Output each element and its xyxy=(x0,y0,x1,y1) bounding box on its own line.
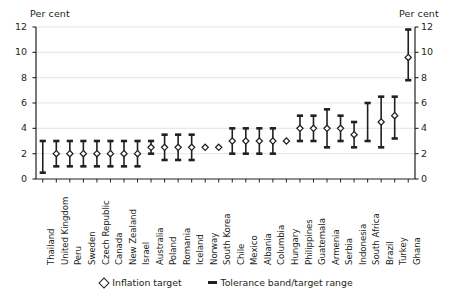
inflation-target-marker xyxy=(67,151,73,157)
x-axis-label-indonesia: Indonesia xyxy=(358,224,368,265)
x-axis-label-guatemala: Guatemala xyxy=(317,218,327,265)
x-axis-label-south-africa: South Africa xyxy=(371,213,381,265)
inflation-target-marker xyxy=(243,138,249,144)
inflation-target-chart: Per cent Per cent 002244668810101212 Tha… xyxy=(0,0,453,302)
x-axis-label-australia: Australia xyxy=(155,227,165,265)
chart-legend: Inflation targetTolerance band/target ra… xyxy=(0,277,453,288)
inflation-target-marker xyxy=(80,151,86,157)
x-axis-label-iceland: Iceland xyxy=(195,234,205,265)
y-tick-label-right: 12 xyxy=(421,22,437,32)
inflation-target-marker xyxy=(175,144,181,150)
inflation-target-marker xyxy=(392,113,398,119)
x-axis-label-united-kingdom: United Kingdom xyxy=(60,197,70,265)
legend-item: Inflation target xyxy=(100,277,181,288)
inflation-target-marker xyxy=(189,144,195,150)
x-axis-label-philippines: Philippines xyxy=(304,219,314,265)
legend-item: Tolerance band/target range xyxy=(208,277,353,288)
x-axis-label-thailand: Thailand xyxy=(46,228,56,265)
y-tick-label-left: 10 xyxy=(11,47,27,57)
inflation-target-marker xyxy=(161,144,167,150)
x-axis-label-south-korea: South Korea xyxy=(222,213,232,265)
inflation-target-marker xyxy=(378,119,384,125)
y-tick-label-right: 8 xyxy=(421,73,437,83)
x-axis-label-albania: Albania xyxy=(263,233,273,265)
x-axis-label-poland: Poland xyxy=(168,237,178,265)
y-tick-label-right: 10 xyxy=(421,47,437,57)
y-tick-label-right: 0 xyxy=(421,174,437,184)
legend-diamond-icon xyxy=(99,277,110,288)
inflation-target-marker xyxy=(351,132,357,138)
inflation-target-marker xyxy=(337,125,343,131)
x-axis-label-turkey: Turkey xyxy=(398,237,408,265)
x-axis-label-peru: Peru xyxy=(73,246,83,265)
inflation-target-marker xyxy=(53,151,59,157)
inflation-target-marker xyxy=(94,151,100,157)
inflation-target-marker xyxy=(107,151,113,157)
y-tick-label-left: 12 xyxy=(11,22,27,32)
inflation-target-marker xyxy=(148,144,154,150)
x-axis-label-sweden: Sweden xyxy=(87,231,97,265)
x-axis-label-czech-republic: Czech Republic xyxy=(101,200,111,265)
x-axis-label-new-zealand: New Zealand xyxy=(128,209,138,265)
x-axis-label-armenia: Armenia xyxy=(331,229,341,265)
inflation-target-marker xyxy=(202,144,208,150)
y-tick-label-left: 2 xyxy=(11,149,27,159)
legend-bar-icon xyxy=(208,281,217,284)
legend-label: Tolerance band/target range xyxy=(221,277,353,288)
inflation-target-marker xyxy=(297,125,303,131)
legend-label: Inflation target xyxy=(112,277,181,288)
inflation-target-marker xyxy=(121,151,127,157)
y-tick-label-right: 4 xyxy=(421,123,437,133)
x-axis-label-brazil: Brazil xyxy=(385,241,395,265)
x-axis-label-chile: Chile xyxy=(236,244,246,265)
x-axis-label-israel: Israel xyxy=(141,242,151,265)
x-axis-label-canada: Canada xyxy=(114,233,124,265)
inflation-target-marker xyxy=(283,138,289,144)
x-axis-label-norway: Norway xyxy=(209,233,219,265)
y-tick-label-left: 6 xyxy=(11,98,27,108)
x-axis-label-columbia: Columbia xyxy=(276,225,286,265)
inflation-target-marker xyxy=(405,54,411,60)
inflation-target-marker xyxy=(256,138,262,144)
x-axis-label-serbia: Serbia xyxy=(344,238,354,265)
x-axis-label-hungary: Hungary xyxy=(290,229,300,265)
inflation-target-marker xyxy=(310,125,316,131)
y-tick-label-left: 4 xyxy=(11,123,27,133)
y-tick-label-left: 0 xyxy=(11,174,27,184)
inflation-target-marker xyxy=(270,138,276,144)
x-axis-label-ghana: Ghana xyxy=(412,237,422,265)
inflation-target-marker xyxy=(216,144,222,150)
x-axis-label-mexico: Mexico xyxy=(249,235,259,265)
y-tick-label-right: 2 xyxy=(421,149,437,159)
inflation-target-marker xyxy=(324,125,330,131)
y-tick-label-left: 8 xyxy=(11,73,27,83)
x-axis-label-romania: Romania xyxy=(182,228,192,265)
inflation-target-marker xyxy=(229,138,235,144)
inflation-target-marker xyxy=(134,151,140,157)
y-tick-label-right: 6 xyxy=(421,98,437,108)
